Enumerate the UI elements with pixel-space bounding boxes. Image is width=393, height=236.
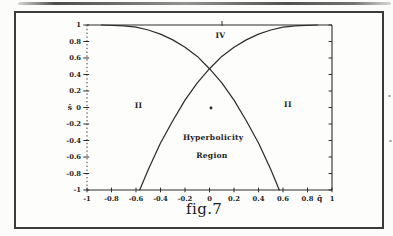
origin-point-marker (210, 107, 213, 110)
region-label: II (284, 100, 292, 109)
boundary-descending-curve (102, 25, 280, 190)
y-tick-label: 0 (76, 104, 81, 112)
y-tick-label: -1 (73, 186, 81, 194)
x-axis-label: q̂ (317, 194, 323, 203)
y-tick-label: -0.4 (66, 137, 81, 145)
x-tick-label: 0.8 (302, 195, 314, 203)
x-tick-label: 0.2 (228, 195, 240, 203)
y-tick-label: 0.6 (69, 54, 81, 62)
x-tick-label: -1 (83, 195, 91, 203)
x-tick-label: 1 (330, 195, 335, 203)
y-tick-label: 0.2 (69, 87, 81, 95)
figure-caption: fig.7 (186, 200, 222, 218)
region-label: Region (196, 151, 228, 160)
region-label: Hyperbolicity (183, 133, 244, 142)
x-tick-label: 0.4 (253, 195, 265, 203)
x-tick-label: -0.8 (104, 195, 119, 203)
y-tick-label: -0.2 (66, 120, 81, 128)
x-tick-label: -0.4 (153, 195, 168, 203)
y-tick-label: -0.8 (66, 170, 81, 178)
y-tick-label: 1 (76, 21, 81, 29)
y-axis-label: ŝ (68, 103, 72, 112)
x-tick-label: 0.6 (277, 195, 289, 203)
region-label: IV (216, 31, 226, 40)
y-tick-label: -0.6 (66, 153, 81, 161)
y-tick-label: 0.8 (69, 38, 81, 46)
x-tick-label: -0.6 (129, 195, 144, 203)
scanned-figure-page: 10.80.60.40.20-0.2-0.4-0.6-0.8-1-1-0.8-0… (0, 0, 393, 236)
y-tick-label: 0.4 (69, 71, 81, 79)
region-label: II (135, 101, 143, 110)
